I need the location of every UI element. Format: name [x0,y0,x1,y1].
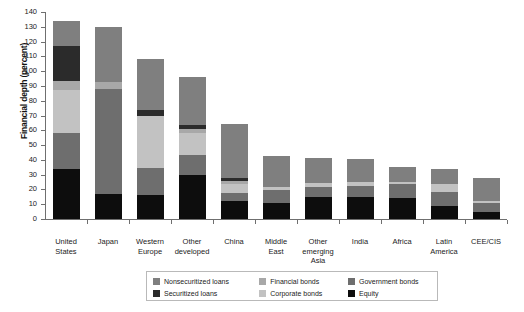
x-axis-tick-mark [423,220,424,224]
legend-row-1: Nonsecuritized loans Financial bonds Gov… [153,275,431,287]
y-axis-tick-label: 120 [11,38,37,46]
x-axis-label: Japan [87,237,129,247]
x-axis-tick-mark [87,220,88,224]
bar-middle-east[interactable] [263,156,290,219]
bar-other-developed[interactable] [179,77,206,219]
x-axis-label-line: America [423,247,465,257]
y-axis-tick-mark [41,42,45,43]
bar-united-states[interactable] [53,21,80,219]
x-axis-label-line: Western [129,237,171,247]
bar-segment [473,212,500,219]
bar-segment [95,82,122,89]
bar-segment [95,194,122,219]
bar-segment [389,198,416,219]
bar-other-emerging-asia[interactable] [305,158,332,219]
y-axis-tick-mark [41,160,45,161]
legend-item-securitized-loans: Securitized loans [153,290,259,297]
legend-item-government-bonds: Government bonds [348,278,431,285]
bar-cee-cis[interactable] [473,178,500,219]
legend-swatch-equity [348,290,355,297]
legend-label-government-bonds: Government bonds [359,278,419,285]
bar-western-europe[interactable] [137,59,164,219]
x-axis-label-line: States [45,247,87,257]
bar-africa[interactable] [389,167,416,219]
x-axis-label-line: Other [297,237,339,247]
x-axis-label-line: India [339,237,381,247]
bar-segment [431,192,458,206]
bar-segment [179,155,206,175]
x-axis-tick-mark [465,220,466,224]
y-axis-tick-mark [41,204,45,205]
y-axis-tick-label: 0 [11,215,37,223]
x-axis-label: OtheremergingAsia [297,237,339,266]
bar-segment [179,175,206,219]
y-axis-tick-label: 140 [11,8,37,16]
legend-item-financial-bonds: Financial bonds [259,278,348,285]
x-axis-label-line: Japan [87,237,129,247]
bar-segment [221,124,248,178]
bar-latin-america[interactable] [431,169,458,219]
legend-row-2: Securitized loans Corporate bonds Equity [153,287,431,299]
y-axis-tick-mark [41,12,45,13]
y-axis-tick-label: 80 [11,97,37,105]
legend-swatch-corporate-bonds [259,290,266,297]
bar-segment [137,59,164,109]
y-axis-tick-label: 10 [11,200,37,208]
y-axis-tick-mark [41,189,45,190]
x-axis-label: India [339,237,381,247]
y-axis-tick-mark [41,101,45,102]
y-axis-tick-label: 20 [11,185,37,193]
x-axis-label-line: United [45,237,87,247]
bar-segment [221,201,248,219]
bar-segment [53,90,80,132]
bar-japan[interactable] [95,27,122,219]
bar-segment [305,187,332,197]
x-axis-label-line: emerging [297,247,339,257]
plot-area: 0102030405060708090100110120130140 Unite… [45,12,507,220]
legend-label-securitized-loans: Securitized loans [164,290,217,297]
bar-segment [53,81,80,91]
x-axis-label-line: Africa [381,237,423,247]
bar-segment [221,193,248,201]
x-axis-label-line: Middle [255,237,297,247]
bar-segment [305,158,332,182]
bar-segment [53,169,80,219]
legend-swatch-financial-bonds [259,278,266,285]
legend-label-corporate-bonds: Corporate bonds [270,290,322,297]
y-axis-tick-mark [41,145,45,146]
legend-item-nonsecuritized-loans: Nonsecuritized loans [153,278,259,285]
x-axis-label-line: Latin [423,237,465,247]
y-axis-tick-mark [41,27,45,28]
bar-segment [221,184,248,194]
y-axis-tick-label: 70 [11,112,37,120]
x-axis-label-line: developed [171,247,213,257]
bar-segment [53,21,80,46]
legend-swatch-government-bonds [348,278,355,285]
bar-segment [263,203,290,219]
x-axis-tick-mark [129,220,130,224]
y-axis-tick-mark [41,175,45,176]
x-axis-label-line: East [255,247,297,257]
bar-segment [137,195,164,219]
x-axis-label-line: Other [171,237,213,247]
x-axis-tick-mark [507,220,508,224]
bar-series-layer [45,12,507,220]
bar-segment [179,133,206,154]
x-axis-tick-mark [171,220,172,224]
bar-china[interactable] [221,124,248,219]
x-axis-label: China [213,237,255,247]
y-axis-tick-mark [41,116,45,117]
bar-segment [389,184,416,198]
legend-swatch-securitized-loans [153,290,160,297]
legend-label-financial-bonds: Financial bonds [270,278,319,285]
x-axis-tick-mark [213,220,214,224]
x-axis-tick-mark [339,220,340,224]
bar-segment [431,169,458,185]
x-axis-label: Africa [381,237,423,247]
x-axis-label: LatinAmerica [423,237,465,256]
bar-india[interactable] [347,159,374,219]
bar-segment [95,89,122,194]
y-axis-tick-label: 130 [11,23,37,31]
y-axis-tick-label: 100 [11,67,37,75]
x-axis-label: Otherdeveloped [171,237,213,256]
